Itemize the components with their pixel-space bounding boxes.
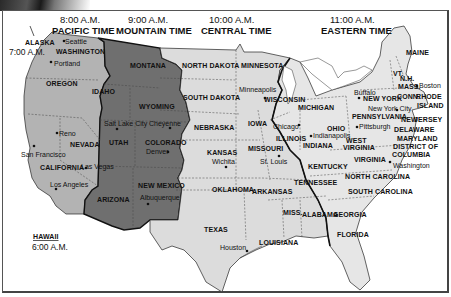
state-wyoming: WYOMING bbox=[139, 103, 175, 110]
state-arizona: ARIZONA bbox=[97, 196, 130, 203]
state-texas: TEXAS bbox=[204, 226, 228, 233]
district-of-columbia-line1: DISTRICT OF bbox=[393, 143, 439, 150]
city-albuquerque: Albuquerque bbox=[140, 194, 180, 202]
central-time-label: CENTRAL TIME bbox=[201, 25, 272, 36]
city-chicago: Chicago bbox=[273, 123, 299, 131]
hawaii-label: HAWAII bbox=[33, 233, 59, 240]
city-denver: Denver bbox=[146, 148, 169, 155]
state-ohio: OHIO bbox=[327, 125, 346, 132]
city-houston: Houston bbox=[220, 244, 246, 251]
state-new-jersey-line2: JERSEY bbox=[414, 116, 442, 123]
city-wichita: Wichita bbox=[212, 158, 235, 165]
state-new-hampshire: N.H. bbox=[400, 75, 414, 82]
state-indiana: INDIANA bbox=[303, 142, 333, 149]
state-colorado: COLORADO bbox=[145, 139, 187, 146]
state-rhode-island-line2: ISLAND bbox=[417, 102, 444, 109]
city-portland: Portland bbox=[54, 60, 80, 67]
state-maryland: MARYLAND bbox=[397, 135, 438, 142]
hawaii-time: 6:00 A.M. bbox=[32, 242, 68, 252]
eastern-time-label: EASTERN TIME bbox=[321, 25, 392, 36]
state-virginia: VIRGINIA bbox=[354, 156, 386, 163]
state-north-carolina: NORTH CAROLINA bbox=[345, 173, 410, 180]
state-tennessee: TENNESSEE bbox=[294, 179, 338, 186]
alaska-time: 7:00 A.M. bbox=[9, 47, 45, 57]
city-san-francisco: San Francisco bbox=[21, 151, 66, 158]
state-kentucky: KENTUCKY bbox=[308, 163, 348, 170]
alaska-arrow-icon bbox=[30, 26, 34, 36]
state-montana: MONTANA bbox=[130, 62, 166, 69]
state-oklahoma: OKLAHOMA bbox=[212, 186, 254, 193]
city-reno: Reno bbox=[59, 130, 76, 137]
state-delaware: DELAWARE bbox=[394, 126, 435, 133]
city-los-angeles: Los Angeles bbox=[50, 181, 89, 189]
pacific-time-value: 8:00 A.M. bbox=[60, 14, 100, 25]
city-indianapolis: Indianapolis bbox=[313, 132, 351, 140]
state-louisiana: LOUISIANA bbox=[259, 239, 298, 246]
state-minnesota: MINNESOTA bbox=[241, 62, 283, 69]
city-cheyenne: Cheyenne bbox=[149, 120, 181, 128]
state-south-dakota: SOUTH DAKOTA bbox=[183, 94, 240, 101]
state-california: CALIFORNIA bbox=[40, 164, 84, 171]
state-rhode-island-line1: RHODE bbox=[416, 93, 442, 100]
alaska-label: ALASKA bbox=[25, 39, 55, 46]
state-washington: WASHINGTON bbox=[56, 48, 105, 55]
state-wisconsin: WISCONSIN bbox=[264, 96, 305, 103]
city-boston: Boston bbox=[419, 82, 441, 89]
state-florida: FLORIDA bbox=[337, 231, 369, 238]
city-st-louis: St. Louis bbox=[260, 158, 288, 165]
state-nevada: NEVADA bbox=[70, 141, 100, 148]
state-utah: UTAH bbox=[109, 139, 128, 146]
city-salt-lake-city: Salt Lake City bbox=[104, 120, 148, 128]
state-mississippi: MISS. bbox=[283, 209, 303, 216]
city-new-york-city: New York City bbox=[368, 105, 412, 113]
state-georgia: GEORGIA bbox=[333, 211, 367, 218]
state-maine: MAINE bbox=[406, 49, 429, 56]
mountain-time-value: 9:00 A.M. bbox=[128, 14, 168, 25]
state-illinois: ILLINOIS bbox=[276, 135, 307, 142]
city-pittsburgh: Pittsburgh bbox=[359, 123, 391, 131]
state-south-carolina: SOUTH CAROLINA bbox=[348, 188, 413, 195]
state-oregon: OREGON bbox=[46, 80, 78, 87]
us-time-zone-map: 8:00 A.M. PACIFIC TIME 9:00 A.M. MOUNTAI… bbox=[0, 0, 451, 297]
eastern-time-value: 11:00 A.M. bbox=[330, 14, 375, 25]
state-arkansas: ARKANSAS bbox=[252, 188, 293, 195]
state-idaho: IDAHO bbox=[92, 88, 116, 95]
central-time-value: 10:00 A.M. bbox=[209, 14, 254, 25]
state-missouri: MISSOURI bbox=[248, 145, 283, 152]
state-michigan: MICHIGAN bbox=[298, 104, 334, 111]
state-new-mexico: NEW MEXICO bbox=[138, 182, 185, 189]
district-of-columbia-line2: COLUMBIA bbox=[392, 151, 431, 158]
city-las-vegas: Las Vegas bbox=[81, 163, 114, 171]
city-minneapolis: Minneapolis bbox=[239, 86, 277, 94]
pacific-time-label: PACIFIC TIME bbox=[52, 25, 115, 36]
city-seattle: Seattle bbox=[65, 38, 87, 45]
state-kansas: KANSAS bbox=[207, 149, 237, 156]
mountain-time-label: MOUNTAIN TIME bbox=[116, 25, 192, 36]
city-washington-dc: Washington bbox=[393, 162, 430, 170]
state-iowa: IOWA bbox=[248, 120, 267, 127]
state-pennsylvania: PENNSYLVANIA bbox=[352, 113, 407, 120]
state-west-virginia-line2: VIRGINIA bbox=[343, 144, 375, 151]
city-buffalo: Buffalo bbox=[354, 89, 376, 96]
state-north-dakota: NORTH DAKOTA bbox=[182, 62, 239, 69]
state-nebraska: NEBRASKA bbox=[194, 124, 234, 131]
